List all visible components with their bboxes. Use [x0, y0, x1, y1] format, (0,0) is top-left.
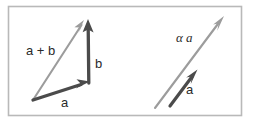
label-a: a: [61, 95, 69, 110]
figure-canvas: a + b b a α a a: [0, 0, 257, 124]
figure-frame: [9, 7, 242, 116]
label-b: b: [95, 56, 102, 71]
label-alpha-a: α a: [176, 30, 193, 45]
label-a-plus-b: a + b: [26, 43, 55, 58]
vector-operations-figure: a + b b a α a a: [0, 0, 257, 124]
vector-b-shaft: [88, 28, 89, 83]
label-a-right: a: [186, 82, 194, 97]
